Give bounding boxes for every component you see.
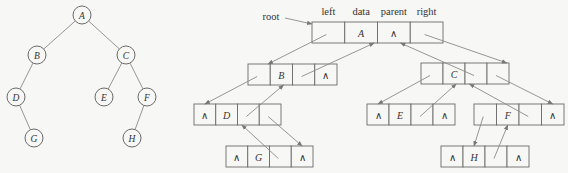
parent-cell bbox=[293, 64, 315, 85]
left-cell bbox=[248, 64, 270, 85]
root-arrow bbox=[285, 18, 312, 24]
right-cell bbox=[259, 104, 281, 125]
linked-node-C: C bbox=[421, 63, 509, 84]
child-pointer-CF bbox=[496, 76, 553, 105]
tree-edge-DG bbox=[20, 105, 31, 130]
tree-node-F: F bbox=[138, 88, 156, 106]
child-pointer-BD bbox=[205, 77, 257, 105]
null-pointer-symbol: ∧ bbox=[201, 110, 208, 121]
linked-node-G: ∧G∧ bbox=[226, 146, 313, 167]
data-value: C bbox=[451, 69, 458, 80]
data-value: A bbox=[357, 28, 365, 39]
tree-edge-CE bbox=[108, 63, 122, 89]
node-label: H bbox=[128, 134, 137, 144]
node-label: B bbox=[34, 51, 40, 61]
linked-node-F: F∧ bbox=[474, 104, 564, 125]
null-pointer-symbol: ∧ bbox=[390, 28, 397, 39]
null-pointer-symbol: ∧ bbox=[375, 110, 382, 121]
linked-node-H: ∧H∧ bbox=[441, 146, 529, 167]
data-value: G bbox=[255, 152, 262, 163]
child-pointer-AB bbox=[268, 35, 326, 65]
linked-node-B: B∧ bbox=[248, 64, 337, 85]
parent-cell bbox=[465, 63, 487, 84]
node-label: G bbox=[31, 134, 38, 144]
tree-edges bbox=[20, 21, 144, 130]
tree-node-E: E bbox=[95, 88, 113, 106]
binary-tree-diagram: ABCDEFGH leftdataparentright A∧B∧C∧D∧E∧F… bbox=[0, 0, 568, 173]
child-pointer-CE bbox=[378, 76, 430, 105]
data-value: F bbox=[504, 110, 512, 121]
tree-node-H: H bbox=[123, 129, 141, 147]
null-pointer-symbol: ∧ bbox=[549, 110, 556, 121]
parent-cell bbox=[270, 146, 292, 167]
tree-edge-CF bbox=[130, 63, 143, 89]
node-label: C bbox=[123, 51, 130, 61]
right-cell bbox=[410, 22, 443, 43]
linked-node-D: ∧D bbox=[194, 104, 281, 125]
tree-nodes: ABCDEFGH bbox=[7, 6, 156, 147]
parent-cell bbox=[519, 104, 542, 125]
node-label: E bbox=[100, 93, 107, 103]
tree-edge-FH bbox=[135, 105, 144, 129]
tree-node-A: A bbox=[73, 6, 91, 24]
data-value: H bbox=[469, 152, 478, 163]
node-label: D bbox=[12, 93, 20, 103]
tree-node-D: D bbox=[7, 88, 25, 106]
left-cell bbox=[421, 63, 443, 84]
root-label: root bbox=[263, 11, 280, 22]
field-headers: leftdataparentright bbox=[321, 6, 436, 17]
tree-node-B: B bbox=[28, 46, 46, 64]
parent-cell bbox=[485, 146, 507, 167]
tree-node-G: G bbox=[25, 129, 43, 147]
null-pointer-symbol: ∧ bbox=[515, 152, 522, 163]
tree-edge-AC bbox=[89, 21, 120, 49]
data-value: B bbox=[278, 70, 284, 81]
tree-edge-BD bbox=[20, 63, 33, 89]
header-left: left bbox=[321, 6, 335, 17]
left-cell bbox=[474, 104, 497, 125]
linked-node-E: ∧E∧ bbox=[367, 104, 455, 125]
tree-edge-AB bbox=[44, 21, 76, 49]
data-value: D bbox=[222, 110, 231, 121]
null-pointer-symbol: ∧ bbox=[233, 152, 240, 163]
linked-nodes: A∧B∧C∧D∧E∧F∧∧G∧∧H∧ bbox=[194, 22, 564, 167]
data-value: E bbox=[396, 110, 403, 121]
root-pointer: root bbox=[263, 11, 312, 24]
left-cell bbox=[312, 22, 345, 43]
node-label: F bbox=[143, 93, 150, 103]
header-data: data bbox=[352, 6, 370, 17]
parent-pointer-BA bbox=[302, 43, 375, 77]
null-pointer-symbol: ∧ bbox=[322, 70, 329, 81]
null-pointer-symbol: ∧ bbox=[441, 110, 448, 121]
null-pointer-symbol: ∧ bbox=[299, 152, 306, 163]
child-pointer-DG bbox=[268, 117, 302, 147]
tree-node-C: C bbox=[117, 46, 135, 64]
node-label: A bbox=[78, 11, 85, 21]
linked-node-A: A∧ bbox=[312, 22, 443, 43]
null-pointer-symbol: ∧ bbox=[449, 152, 456, 163]
header-right: right bbox=[417, 6, 437, 17]
header-parent: parent bbox=[381, 6, 407, 17]
pointer-arrows bbox=[205, 35, 553, 159]
